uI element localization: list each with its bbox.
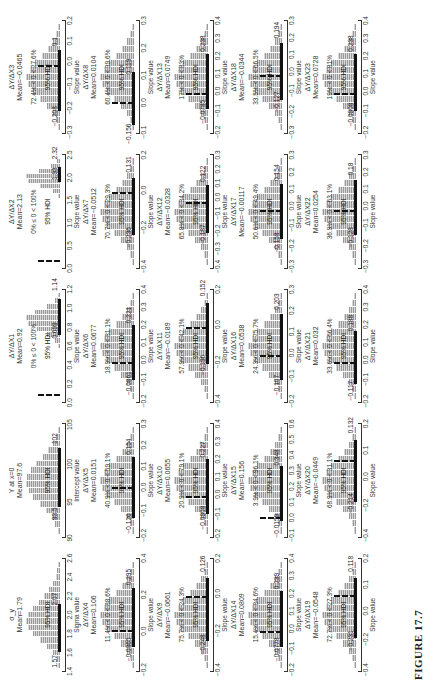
- tick-label: 0.2: [288, 306, 295, 315]
- tick-label: −0.3: [288, 260, 295, 273]
- histogram-panel: ΔY/ΔX12Mean=−0.032865.8% < 0 < 34.2%95% …: [156, 144, 230, 278]
- tick-label: 0.3: [214, 150, 221, 159]
- x-axis-label: Slope value: [295, 144, 302, 278]
- hdi-bar: [206, 578, 209, 642]
- comparison-percent: 60.4% < 0 < 39.6%: [104, 10, 111, 144]
- histogram-bar: [206, 158, 208, 164]
- hdi-label: 95% HDI: [192, 144, 199, 278]
- histogram-bar: [354, 527, 356, 533]
- x-axis-ticks: −0.4−0.20.00.10.2: [362, 419, 369, 541]
- tick-label: −0.1: [362, 373, 369, 386]
- comparison-value-line: [112, 487, 134, 489]
- tick-label: 0.1: [362, 184, 369, 193]
- histogram-bar: [130, 31, 134, 37]
- hdi-low-value: −0.117: [347, 381, 354, 401]
- histogram-bar: [132, 427, 134, 433]
- panel-mean: Mean=−0.0189: [164, 279, 172, 413]
- hdi-label: 95% HDI: [340, 413, 347, 547]
- tick-label: 0.2: [140, 150, 147, 159]
- histogram-panel: ΔY/ΔX19Mean=−0.054872.7% < 0 < 27.3%95% …: [304, 548, 378, 682]
- tick-label: 0.2: [214, 454, 221, 463]
- panel-mean: Mean=−0.0328: [164, 144, 172, 278]
- hdi-low-value: −0.0908: [199, 506, 206, 530]
- tick-label: 0.0: [288, 201, 295, 210]
- tick-label: 105: [66, 419, 73, 430]
- tick-label: 0.2: [288, 33, 295, 42]
- x-axis-ticks: −0.3−0.2−0.10.00.10.20.3: [362, 150, 369, 272]
- comparison-value-line: [334, 595, 356, 597]
- x-axis-label: Slope value: [221, 10, 228, 144]
- histogram-panel: ΔY/ΔX16Mean=0.053824.3% < 0 < 75.7%95% H…: [230, 279, 304, 413]
- tick-label: 0.2: [288, 589, 295, 598]
- hdi-high-value: 0.131: [125, 156, 132, 172]
- tick-label: 0.2: [140, 43, 147, 52]
- x-axis-label: Slope value: [73, 10, 80, 144]
- panel-mean: Mean=0.0749: [164, 10, 172, 144]
- hdi-label: 95% HDI: [266, 279, 273, 413]
- panel-mean: Mean=0.0254: [312, 144, 320, 278]
- histogram-bar: [280, 158, 282, 164]
- tick-label: 0.2: [140, 590, 147, 599]
- panel-title: σ_y: [8, 548, 16, 682]
- histogram-bar: [354, 662, 356, 668]
- comparison-value-line: [334, 93, 356, 95]
- hdi-high-value: 0.238: [199, 35, 206, 51]
- hdi-label: 95% HDI: [340, 548, 347, 682]
- hdi-bar: [206, 459, 209, 514]
- comparison-percent: 36.9% < 0 < 63.1%: [326, 144, 333, 278]
- tick-label: 0.2: [362, 51, 369, 60]
- tick-label: 0.4: [362, 285, 369, 294]
- tick-label: 0.4: [288, 554, 295, 563]
- comparison-percent: 19% < 0 < 81%: [326, 10, 333, 144]
- panel-title: ΔY/ΔX23: [304, 10, 312, 144]
- tick-label: 0.1: [140, 71, 147, 80]
- hdi-low-value: −0.187: [199, 224, 206, 244]
- x-axis-ticks: 9095100105: [66, 419, 73, 541]
- tick-label: 0.0: [214, 589, 221, 598]
- tick-label: 1.2: [66, 285, 73, 294]
- tick-label: −0.4: [362, 663, 369, 676]
- hdi-bar: [354, 180, 357, 235]
- tick-label: 0.1: [362, 69, 369, 78]
- panel-title: ΔY/ΔX2: [8, 144, 16, 278]
- tick-label: 0.4: [288, 451, 295, 460]
- hdi-high-value: 0.348: [273, 449, 280, 465]
- x-axis-label: Slope value: [73, 279, 80, 413]
- tick-label: 2.0: [66, 173, 73, 182]
- histogram-bar: [127, 38, 134, 44]
- hdi-high-value: 102: [51, 433, 58, 444]
- hdi-high-value: 0.122: [199, 166, 206, 182]
- tick-label: 100: [66, 459, 73, 470]
- histogram-bar: [352, 300, 356, 306]
- tick-label: 0.1: [66, 36, 73, 45]
- tick-label: 0.2: [288, 482, 295, 491]
- panel-title: Y at x=0: [8, 413, 16, 547]
- hdi-bar: [354, 578, 357, 639]
- histogram-grid: σ_yMean=1.7995% HDI1.572.071.41.61.82.02…: [8, 10, 378, 682]
- comparison-percent: 17% < 0 < 83%: [178, 10, 185, 144]
- histogram-panel: ΔY/ΔX9Mean=−0.066175.7% < 0 < 24.3%95% H…: [156, 548, 230, 682]
- histogram-bar: [132, 259, 134, 265]
- panel-mean: Mean=0.92: [16, 279, 24, 413]
- x-axis-ticks: 0.00.51.01.52.02.5: [66, 150, 73, 272]
- tick-label: 0.0: [66, 398, 73, 407]
- comparison-percent: 33.5% < 0 < 66.5%: [252, 10, 259, 144]
- hdi-bar: [132, 325, 135, 380]
- comparison-percent: 72.4% < 0 < 27.6%: [30, 10, 37, 144]
- histogram-bar: [354, 293, 356, 299]
- tick-label: 0.1: [214, 472, 221, 481]
- tick-label: 0.3: [288, 285, 295, 294]
- hdi-label: 95% HDI: [340, 10, 347, 144]
- x-axis-label: Slope value: [147, 10, 154, 144]
- hdi-low-value: −0.126: [125, 513, 132, 533]
- hdi-low-value: −0.236: [125, 227, 132, 247]
- tick-label: 0.0: [362, 355, 369, 364]
- histogram-bar: [130, 300, 134, 306]
- histogram-panel: ΔY/ΔX1Mean=0.920% ≤ 0 < 100%95% HDI0.699…: [8, 279, 82, 413]
- histogram-bar: [280, 293, 282, 299]
- tick-label: 0.0: [214, 193, 221, 202]
- x-axis-label: Sigma value: [73, 548, 80, 682]
- tick-label: −0.4: [140, 260, 147, 273]
- panel-title: ΔY/ΔX6: [82, 279, 90, 413]
- tick-label: −0.1: [288, 84, 295, 97]
